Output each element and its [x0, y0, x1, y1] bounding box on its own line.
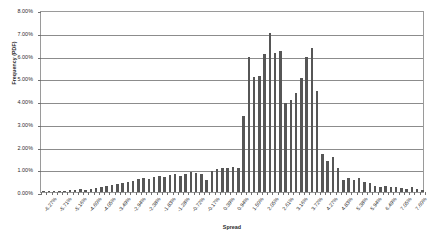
- x-tickmark: [262, 192, 263, 195]
- x-tick-label: -4.05%: [102, 196, 117, 213]
- bar: [158, 176, 161, 192]
- bar: [295, 93, 298, 192]
- x-tickmark: [320, 192, 321, 195]
- x-axis-tick-labels: -6.27%-5.71%-5.16%-4.60%-4.05%-3.49%-2.9…: [40, 196, 424, 226]
- x-tick-label: 4.27%: [325, 196, 339, 211]
- bar: [332, 157, 335, 192]
- bar-series: [41, 12, 423, 192]
- y-tick-label: 7.00%: [17, 31, 33, 37]
- x-tickmark: [151, 192, 152, 195]
- bar: [190, 172, 193, 192]
- bar: [242, 116, 245, 192]
- x-axis-tickmarks: [41, 192, 423, 195]
- x-tick-label: -2.94%: [132, 196, 147, 213]
- x-tick-label: -3.49%: [117, 196, 132, 213]
- bar: [226, 168, 229, 192]
- x-tick-label: 7.05%: [399, 196, 413, 211]
- x-tick-label: 4.83%: [340, 196, 354, 211]
- bar: [342, 180, 345, 193]
- x-tick-label: -0.72%: [191, 196, 206, 213]
- x-tick-label: -0.17%: [206, 196, 221, 213]
- bar: [263, 54, 266, 192]
- x-tickmark: [130, 192, 131, 195]
- x-tickmark: [362, 192, 363, 195]
- y-tick-label: 4.00%: [17, 99, 33, 105]
- x-tick-label: 2.05%: [266, 196, 280, 211]
- bar: [169, 175, 172, 192]
- x-tick-label: 7.60%: [413, 196, 427, 211]
- x-tickmark: [357, 192, 358, 195]
- x-tickmark: [378, 192, 379, 195]
- x-tickmark: [41, 192, 42, 195]
- x-tickmark: [236, 192, 237, 195]
- y-tick-label: 2.00%: [17, 145, 33, 151]
- bar: [353, 180, 356, 192]
- x-tickmark: [178, 192, 179, 195]
- bar: [321, 154, 324, 192]
- bar: [248, 57, 251, 192]
- bar: [221, 168, 224, 192]
- x-tickmark: [88, 192, 89, 195]
- x-axis-title: Spread: [40, 224, 424, 230]
- x-tickmark: [293, 192, 294, 195]
- x-tickmark: [125, 192, 126, 195]
- x-tickmark: [336, 192, 337, 195]
- x-tick-label: 5.94%: [369, 196, 383, 211]
- bar: [200, 174, 203, 192]
- bar: [316, 91, 319, 192]
- bar: [174, 174, 177, 192]
- x-tickmark: [399, 192, 400, 195]
- x-tick-label: 0.94%: [236, 196, 250, 211]
- bar: [269, 33, 272, 192]
- y-tick-label: 6.00%: [17, 54, 33, 60]
- x-tickmark: [225, 192, 226, 195]
- x-tickmark: [188, 192, 189, 195]
- x-tickmark: [94, 192, 95, 195]
- bar: [137, 179, 140, 192]
- bar: [132, 181, 135, 192]
- x-tickmark: [309, 192, 310, 195]
- x-tick-label: 0.39%: [221, 196, 235, 211]
- bar: [300, 78, 303, 192]
- x-tick-label: 3.16%: [295, 196, 309, 211]
- x-tickmark: [341, 192, 342, 195]
- x-tickmark: [315, 192, 316, 195]
- bar: [311, 48, 314, 192]
- x-tickmark: [246, 192, 247, 195]
- x-tickmark: [209, 192, 210, 195]
- x-tickmark: [388, 192, 389, 195]
- bar: [184, 174, 187, 192]
- x-tick-label: -1.83%: [161, 196, 176, 213]
- bar: [284, 103, 287, 192]
- x-tickmark: [146, 192, 147, 195]
- x-tickmark: [78, 192, 79, 195]
- x-tickmark: [383, 192, 384, 195]
- x-tickmark: [57, 192, 58, 195]
- y-tick-label: 8.00%: [17, 8, 33, 14]
- bar: [127, 182, 130, 192]
- y-axis-tick-labels: 0.00%1.00%2.00%3.00%4.00%5.00%6.00%7.00%…: [0, 11, 36, 193]
- bar: [216, 169, 219, 192]
- bar: [148, 179, 151, 192]
- bar: [258, 76, 261, 192]
- x-tick-label: -4.60%: [87, 196, 102, 213]
- bar: [347, 178, 350, 192]
- bar: [195, 173, 198, 192]
- x-tickmark: [251, 192, 252, 195]
- x-tickmark: [73, 192, 74, 195]
- x-tickmark: [351, 192, 352, 195]
- x-tickmark: [83, 192, 84, 195]
- x-tickmark: [167, 192, 168, 195]
- y-tick-label: 5.00%: [17, 76, 33, 82]
- x-tickmark: [425, 192, 426, 195]
- x-tick-label: 5.38%: [354, 196, 368, 211]
- x-tickmark: [173, 192, 174, 195]
- x-tick-label: -2.38%: [147, 196, 162, 213]
- x-tickmark: [115, 192, 116, 195]
- bar: [290, 100, 293, 192]
- x-tick-label: 1.50%: [251, 196, 265, 211]
- bar: [337, 168, 340, 192]
- x-tickmark: [299, 192, 300, 195]
- y-tick-label: 1.00%: [17, 167, 33, 173]
- bar: [363, 182, 366, 192]
